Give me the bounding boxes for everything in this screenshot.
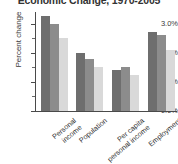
bar [130,75,139,111]
bar [112,70,121,111]
bar-group [112,12,139,111]
bar-group [76,12,103,111]
x-axis-line [35,111,177,112]
bar [157,35,166,111]
bar [121,67,130,111]
y-axis-title: Percent change [14,0,23,85]
bar [76,53,85,111]
bar-group [41,12,68,111]
bar [50,24,59,111]
bar [166,50,175,111]
bar [85,59,94,111]
bar [59,38,68,111]
chart-title: Economic Change, 1970-2005 [0,0,178,6]
bar [41,16,50,111]
economic-change-bar-chart: Economic Change, 1970-2005 Percent chang… [0,0,178,164]
plot-area [36,12,177,111]
bar [94,67,103,111]
bar [148,32,157,111]
bar-group [148,12,175,111]
